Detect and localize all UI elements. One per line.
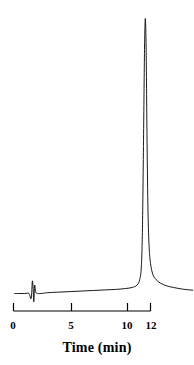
chromatogram-figure: 0 5 10 12 Time (min) bbox=[0, 0, 194, 365]
x-axis-tick-label-0: 0 bbox=[10, 320, 16, 331]
detector-signal-trace bbox=[15, 18, 193, 301]
x-axis-ticks bbox=[14, 303, 151, 311]
x-axis-tick-label-12: 12 bbox=[146, 320, 157, 331]
chromatogram-plot bbox=[0, 0, 194, 365]
x-axis-tick-label-5: 5 bbox=[68, 320, 74, 331]
x-axis-title: Time (min) bbox=[0, 340, 194, 356]
x-axis-tick-label-10: 10 bbox=[122, 320, 133, 331]
